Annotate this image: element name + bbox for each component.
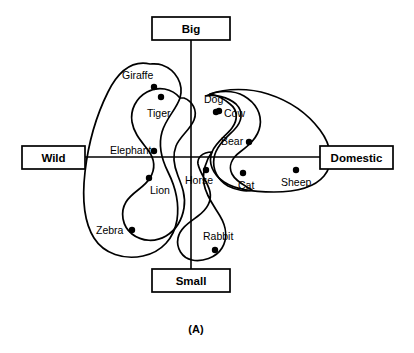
node-dot-tiger <box>158 94 164 100</box>
node-sheep: Sheep <box>281 167 312 188</box>
node-label-zebra: Zebra <box>96 224 124 236</box>
node-label-cat: Cat <box>238 179 254 191</box>
node-dot-horse <box>203 167 209 173</box>
pole-box-wild-label: Wild <box>41 152 65 164</box>
diagram-canvas: Big Small Wild Domestic GiraffeTigerDogC… <box>0 0 414 353</box>
pole-box-domestic: Domestic <box>320 146 393 169</box>
node-elephant: Elephant <box>110 144 157 156</box>
node-label-elephant: Elephant <box>110 144 152 156</box>
node-dot-elephant <box>151 148 157 154</box>
pole-box-domestic-label: Domestic <box>331 152 383 164</box>
node-label-rabbit: Rabbit <box>203 230 233 242</box>
node-rabbit: Rabbit <box>203 230 233 253</box>
pole-box-big: Big <box>152 17 230 40</box>
node-label-cow: Cow <box>224 107 245 119</box>
node-label-tiger: Tiger <box>147 107 171 119</box>
node-cat: Cat <box>238 170 254 191</box>
node-dot-zebra <box>129 227 135 233</box>
pole-box-big-label: Big <box>182 23 201 35</box>
node-label-giraffe: Giraffe <box>122 69 153 81</box>
node-label-dog: Dog <box>204 93 223 105</box>
pole-box-small-label: Small <box>176 275 207 287</box>
node-label-horse: Horse <box>185 174 213 186</box>
concept-map-figure: Big Small Wild Domestic GiraffeTigerDogC… <box>0 0 414 353</box>
figure-caption: (A) <box>188 323 204 335</box>
node-tiger: Tiger <box>147 94 171 119</box>
node-dot-giraffe <box>151 84 157 90</box>
node-label-bear: Bear <box>221 135 244 147</box>
node-dot-cow <box>213 109 219 115</box>
pole-box-small: Small <box>152 269 230 292</box>
node-lion: Lion <box>146 175 170 196</box>
node-giraffe: Giraffe <box>122 69 157 90</box>
node-dot-rabbit <box>212 247 218 253</box>
node-label-lion: Lion <box>150 184 170 196</box>
node-dot-lion <box>146 175 152 181</box>
node-zebra: Zebra <box>96 224 135 236</box>
nodes-group: GiraffeTigerDogCowBearElephantLionHorseC… <box>96 69 312 253</box>
node-dot-sheep <box>293 167 299 173</box>
pole-box-wild: Wild <box>22 146 85 169</box>
node-label-sheep: Sheep <box>281 176 312 188</box>
node-dot-bear <box>246 139 252 145</box>
node-dot-cat <box>240 170 246 176</box>
